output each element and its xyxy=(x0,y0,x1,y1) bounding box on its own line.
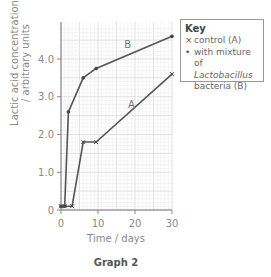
x-axis-label: Time / days xyxy=(86,233,146,244)
svg-text:0: 0 xyxy=(48,205,54,216)
y-axis-label: Lactic acid concentration / arbitrary un… xyxy=(9,0,31,133)
legend-label: control (A) xyxy=(194,35,241,47)
y-axis-label-line2: / arbitrary units xyxy=(20,0,31,133)
legend-label-part: Lactobacillus xyxy=(194,70,253,80)
y-axis-label-line1: Lactic acid concentration xyxy=(9,0,20,133)
svg-text:30: 30 xyxy=(166,218,179,229)
legend-label: with mixture of Lactobacillus bacteria (… xyxy=(194,47,259,93)
svg-text:3.0: 3.0 xyxy=(38,91,54,102)
legend-label-part: bacteria (B) xyxy=(194,81,247,91)
svg-text:0: 0 xyxy=(58,218,64,229)
legend-title: Key xyxy=(185,22,259,35)
dot-marker-icon: • xyxy=(185,47,194,93)
grid xyxy=(61,22,172,210)
legend-label-part: with mixture of xyxy=(194,47,251,69)
svg-text:10: 10 xyxy=(92,218,105,229)
legend-item-control: × control (A) xyxy=(185,35,259,47)
svg-text:A: A xyxy=(128,99,135,110)
svg-text:4.0: 4.0 xyxy=(38,54,54,65)
svg-text:20: 20 xyxy=(129,218,142,229)
svg-text:1.0: 1.0 xyxy=(38,167,54,178)
cross-marker-icon: × xyxy=(185,35,194,47)
svg-text:2.0: 2.0 xyxy=(38,129,54,140)
legend: Key × control (A) • with mixture of Lact… xyxy=(180,19,264,82)
svg-text:B: B xyxy=(124,39,131,50)
legend-item-lactobacillus: • with mixture of Lactobacillus bacteria… xyxy=(185,47,259,93)
graph-caption: Graph 2 xyxy=(86,257,146,268)
